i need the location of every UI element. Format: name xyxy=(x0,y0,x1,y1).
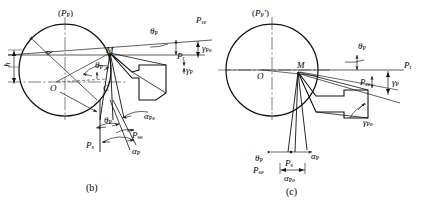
alpha-p-arc-b xyxy=(103,137,134,142)
tool-base-line-c xyxy=(316,112,368,118)
tool-flank-right-c xyxy=(298,72,307,150)
diagram-canvas xyxy=(0,0,421,204)
gamma-pe-arrow-top-b xyxy=(196,42,200,47)
label-theta-p-lower-b: θP xyxy=(104,116,112,125)
reference-line-pre-c xyxy=(300,74,400,103)
label-alpha-p-b: αP xyxy=(132,147,140,156)
theta-p-arrow-lower-right-b xyxy=(112,124,119,126)
label-pre-c: Pre xyxy=(360,78,370,87)
label-alpha-pe-c: αPe xyxy=(284,174,295,183)
label-center-o-b: O xyxy=(50,84,57,93)
label-pse-c: Pse xyxy=(253,166,264,175)
label-point-c-b: C xyxy=(103,84,109,93)
label-ps-c: Ps xyxy=(285,159,293,168)
gamma-pe-arrow-c xyxy=(358,103,365,110)
gamma-p-arrow-top-c xyxy=(386,72,390,77)
label-height-h-b: h xyxy=(5,60,10,69)
plane-label-pp-prime-c: (PP′) xyxy=(252,9,269,18)
label-theta-p-bottom-c: θP xyxy=(255,154,263,163)
label-center-o-c: O xyxy=(257,72,264,81)
label-pse-b: Pse xyxy=(132,131,143,140)
theta-p-arrow-left-b xyxy=(83,74,92,76)
figure-root: (PP) O M C d h θP θP Pre Pr γPe γP θP αP… xyxy=(0,0,421,204)
panel-b-graphics xyxy=(8,17,212,152)
tool-body-c xyxy=(298,72,368,118)
label-ps-b: Ps xyxy=(86,141,94,150)
label-alpha-pe-b: αPe xyxy=(144,112,155,121)
theta-p-arrow-right-b xyxy=(104,67,109,70)
label-theta-p-right-c: θP xyxy=(358,42,366,51)
label-gamma-pe-b: γPe xyxy=(202,44,212,53)
label-gamma-pe-c: γPe xyxy=(363,118,373,127)
plane-label-pp-b: (PP) xyxy=(58,9,73,18)
gamma-pe-arrow-bot-b xyxy=(196,52,200,57)
caption-panel-c: (c) xyxy=(286,186,297,197)
tool-rake-line-c xyxy=(298,72,368,90)
theta-p-arc-c xyxy=(345,60,364,62)
caption-panel-b: (b) xyxy=(86,182,98,193)
label-point-m-c: M xyxy=(297,61,305,70)
label-alpha-p-c: αP xyxy=(311,152,319,161)
label-gamma-p-c: γP xyxy=(392,78,399,87)
alpha-pe-arrow-left-c xyxy=(281,168,286,172)
h-arrow-top-b xyxy=(12,51,16,56)
label-pr-c: Pr xyxy=(404,61,412,70)
theta-p-arrow-lower-left-b xyxy=(97,127,106,128)
alpha-pe-arrow-right-c xyxy=(299,168,304,172)
label-pr-b: Pr xyxy=(177,52,185,61)
label-theta-p-upper-b: θP xyxy=(150,27,158,36)
label-theta-p-mid-b: θP xyxy=(95,61,103,70)
label-point-m-b: M xyxy=(106,46,114,55)
pse-line-b xyxy=(110,100,130,150)
tool-base-line-b xyxy=(132,72,166,93)
gamma-p-arrow-bot-c xyxy=(386,89,390,94)
label-gamma-p-b: γP xyxy=(186,66,193,75)
label-pre-b: Pre xyxy=(196,16,206,25)
line-o-to-c-b xyxy=(57,79,107,82)
bottom-dim-dot-c xyxy=(290,151,293,154)
